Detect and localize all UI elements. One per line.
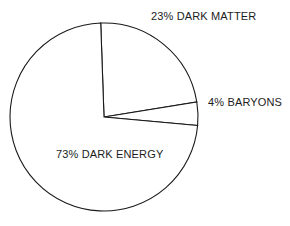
pie-label-baryons: 4% BARYONS bbox=[208, 97, 282, 108]
pie-slice-group bbox=[10, 23, 198, 211]
pie-chart-svg bbox=[0, 0, 290, 226]
pie-chart-figure: 23% DARK MATTER 4% BARYONS 73% DARK ENER… bbox=[0, 0, 290, 226]
pie-label-dark-energy: 73% DARK ENERGY bbox=[56, 149, 163, 160]
pie-slice-dark-matter bbox=[101, 23, 197, 117]
pie-label-dark-matter: 23% DARK MATTER bbox=[151, 11, 256, 22]
